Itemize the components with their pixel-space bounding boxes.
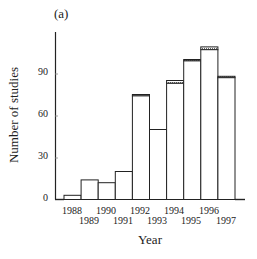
bar-1996 (201, 47, 218, 200)
bar-1997 (218, 76, 235, 199)
bar-1988 (64, 195, 81, 199)
bar-1991 (115, 172, 132, 200)
bar-1995 (184, 60, 201, 200)
bar-chart (0, 0, 257, 259)
bar-1994 (167, 81, 184, 200)
bar-1993 (150, 130, 167, 200)
bar-1990 (98, 183, 115, 200)
bars-group (64, 47, 235, 200)
bar-1992 (132, 95, 149, 200)
bar-1989 (81, 180, 98, 200)
